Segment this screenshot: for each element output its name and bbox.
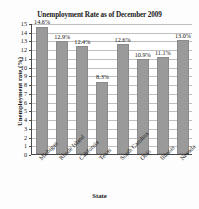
bar[interactable] [36,27,48,155]
y-tick-label: 4 [11,117,27,123]
y-tick-label: 1 [11,143,27,149]
y-tick-mark [29,68,32,69]
y-tick-label: 7 [11,91,27,97]
y-tick-mark [29,138,32,139]
y-tick-label: 12 [11,47,27,53]
y-tick-label: 10 [11,65,27,71]
y-tick-label: 14 [11,30,27,36]
bar-slot: 12.9% [52,24,72,154]
y-tick-label: 3 [11,126,27,132]
y-tick-label: 6 [11,100,27,106]
y-tick-mark [29,94,32,95]
bar-value-label: 14.6% [34,19,50,25]
y-tick-label: 0 [11,152,27,158]
y-tick-mark [29,146,32,147]
y-tick-mark [29,24,32,25]
bar-value-label: 12.6% [115,37,131,43]
bar-value-label: 10.9% [135,52,151,58]
y-tick-label: 5 [11,108,27,114]
x-axis-title: State [0,192,199,199]
bar-slot: 8.3% [92,24,112,154]
y-tick-label: 15 [11,21,27,27]
bar-slot: 13.0% [173,24,193,154]
bar-value-label: 13.0% [175,33,191,39]
y-tick-mark [29,41,32,42]
y-tick-label: 11 [11,56,27,62]
bar-slot: 12.6% [113,24,133,154]
plot-area: 14.6%12.9%12.4%8.3%12.6%10.9%11.1%13.0% [31,24,192,155]
bar-slot: 14.6% [32,24,52,154]
bar[interactable] [117,44,129,154]
y-tick-mark [29,111,32,112]
y-tick-label: 13 [11,38,27,44]
y-tick-mark [29,85,32,86]
bar-value-label: 8.3% [96,74,109,80]
bar-value-label: 12.9% [54,34,70,40]
bar-slot: 11.1% [153,24,173,154]
bar-series: 14.6%12.9%12.4%8.3%12.6%10.9%11.1%13.0% [32,24,192,154]
bar[interactable] [157,57,169,154]
bar[interactable] [56,41,68,154]
y-tick-label: 9 [11,73,27,79]
y-tick-mark [29,50,32,51]
y-tick-mark [29,33,32,34]
y-tick-mark [29,76,32,77]
y-tick-mark [29,59,32,60]
y-tick-mark [29,103,32,104]
y-tick-mark [29,155,32,156]
y-tick-mark [29,120,32,121]
y-tick-label: 2 [11,135,27,141]
bar[interactable] [177,40,189,154]
bar-value-label: 12.4% [74,39,90,45]
bar-chart: Unemployment Rate as of December 2009 Un… [0,0,199,209]
chart-title: Unemployment Rate as of December 2009 [0,11,199,20]
y-tick-mark [29,129,32,130]
bar-value-label: 11.1% [155,50,171,56]
y-tick-label: 8 [11,82,27,88]
